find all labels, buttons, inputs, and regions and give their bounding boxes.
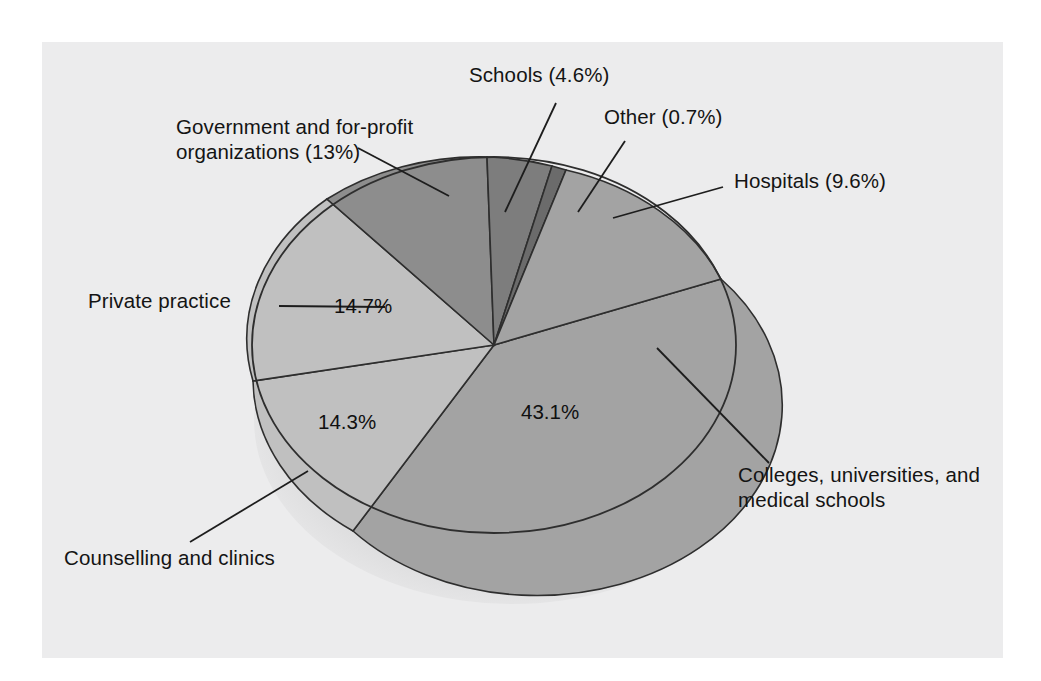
label-colleges-line2: medical schools	[738, 487, 885, 512]
pie-chart	[0, 0, 1041, 681]
label-government-line1: Government and for-profit	[176, 114, 413, 139]
label-hospitals: Hospitals (9.6%)	[734, 168, 886, 193]
value-counselling: 14.3%	[318, 410, 376, 434]
label-private-practice: Private practice	[88, 288, 231, 313]
label-counselling: Counselling and clinics	[64, 545, 275, 570]
value-colleges: 43.1%	[521, 400, 579, 424]
label-other: Other (0.7%)	[604, 104, 723, 129]
value-private-practice: 14.7%	[334, 294, 392, 318]
label-government-line2: organizations (13%)	[176, 139, 360, 164]
label-schools: Schools (4.6%)	[469, 62, 609, 87]
label-colleges-line1: Colleges, universities, and	[738, 462, 980, 487]
